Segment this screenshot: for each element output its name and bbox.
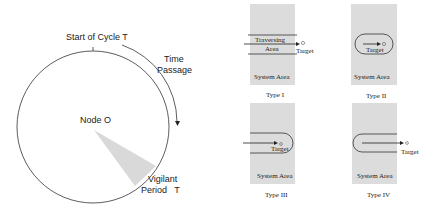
arrowhead-icon	[296, 42, 300, 46]
traversing-label: Traversing	[255, 36, 286, 44]
caption: Type I	[266, 91, 285, 99]
start-label: Start of Cycle T	[66, 32, 128, 42]
target-label: Target	[401, 148, 419, 156]
system-area-label: System Area	[254, 73, 290, 81]
target-icon	[406, 142, 409, 145]
passage-label: Passage	[157, 65, 192, 75]
system-area-label: System Area	[257, 172, 293, 180]
system-area-label: System Area	[354, 73, 390, 81]
time-label: Time	[164, 54, 184, 64]
caption: Type III	[265, 191, 288, 199]
panel-type-4: Target System Area Type IV	[352, 103, 419, 199]
arrowhead-icon	[175, 121, 180, 126]
cycle-circle	[17, 51, 169, 203]
period-label: Period T	[141, 185, 180, 195]
figure: Start of Cycle T Time Passage Node O Vig…	[0, 0, 439, 209]
target-icon	[301, 41, 304, 44]
target-label: Target	[296, 47, 314, 55]
panel-type-2: Target System Area Type II	[351, 4, 397, 100]
panel-type-3: Target System Area Type III	[243, 103, 295, 199]
cycle-diagram: Start of Cycle T Time Passage Node O Vig…	[17, 32, 192, 203]
target-label: Target	[366, 46, 384, 54]
panel-type-1: Traversing Area Target System Area Type …	[244, 4, 314, 99]
caption: Type II	[366, 92, 387, 100]
vigilant-sector	[94, 130, 156, 186]
arrowhead-icon	[400, 141, 404, 145]
caption: Type IV	[367, 191, 390, 199]
system-area-label: System Area	[357, 172, 393, 180]
target-label: Target	[271, 145, 289, 153]
vigilant-label: Vigilant	[148, 174, 178, 184]
area-label: Area	[265, 45, 279, 53]
node-label: Node O	[80, 115, 111, 125]
